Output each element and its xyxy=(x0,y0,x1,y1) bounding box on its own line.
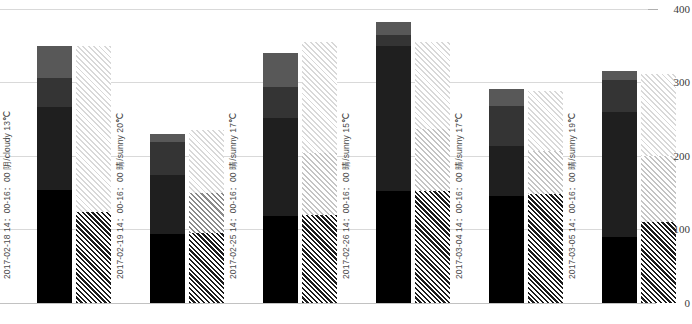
solid-stacked-bar[interactable] xyxy=(489,89,524,303)
bar-segment xyxy=(189,193,224,233)
hatched-stacked-bar[interactable] xyxy=(528,91,563,303)
bar-segment xyxy=(489,196,524,303)
bar-segment xyxy=(415,191,450,303)
solid-stacked-bar[interactable] xyxy=(150,134,185,303)
hatched-stacked-bar[interactable] xyxy=(189,130,224,303)
category-label: 2017-03-04 14：00-16：00 晴/sunny 17℃ xyxy=(452,113,464,279)
bar-segment xyxy=(150,234,185,303)
bar-segment xyxy=(263,53,298,87)
category-label: 2017-02-25 14：00-16：00 晴/sunny 17℃ xyxy=(226,113,238,279)
bar-segment xyxy=(76,46,111,212)
bar-segment xyxy=(189,130,224,193)
y-axis-tick-label: 300 xyxy=(656,76,690,88)
bar-segment xyxy=(602,237,637,303)
bar-segment xyxy=(602,112,637,237)
bar-segment xyxy=(76,212,111,303)
bar-segment xyxy=(263,216,298,303)
bar-segment xyxy=(302,153,337,215)
hatched-stacked-bar[interactable] xyxy=(415,42,450,303)
bar-segment xyxy=(37,46,72,78)
bar-segment xyxy=(528,194,563,303)
bar-segment xyxy=(489,89,524,106)
bar-segment xyxy=(602,80,637,112)
bar-segment xyxy=(37,190,72,303)
bar-segment xyxy=(150,175,185,234)
bar-segment xyxy=(37,78,72,107)
bar-segment xyxy=(489,146,524,196)
y-axis: 400 300 200 100 0 xyxy=(656,0,692,324)
bar-segment xyxy=(150,134,185,142)
gridline-baseline-0 xyxy=(0,303,656,304)
bar-segment xyxy=(376,46,411,191)
bar-segment xyxy=(376,22,411,35)
bar-segment xyxy=(376,35,411,46)
bar-segment xyxy=(263,87,298,118)
y-axis-tick-label: 100 xyxy=(656,223,690,235)
y-axis-tick-label: 400 xyxy=(656,3,690,15)
y-axis-tick-label: 0 xyxy=(656,297,690,309)
category-label: 2017-02-26 14：00-16：00 晴/sunny 15℃ xyxy=(339,113,351,279)
category-label: 2017-03-05 14：00-16：00 晴/sunny 19℃ xyxy=(565,113,577,279)
gridline-400 xyxy=(0,9,656,10)
category-label: 2017-02-19 14：00-16：00 晴/sunny 20℃ xyxy=(113,113,125,279)
bar-segment xyxy=(302,42,337,153)
bar-segment xyxy=(302,215,337,303)
stacked-bar-chart: 2017-02-18 14：00-16：00 阴/cloudy 13℃ 2017… xyxy=(0,0,692,324)
bar-segment xyxy=(150,142,185,175)
bar-segment xyxy=(415,129,450,191)
category-label: 2017-02-18 14：00-16：00 阴/cloudy 13℃ xyxy=(0,111,12,279)
bar-segment xyxy=(602,71,637,80)
plot-area: 2017-02-18 14：00-16：00 阴/cloudy 13℃ 2017… xyxy=(0,0,656,324)
bar-segment xyxy=(376,191,411,303)
y-axis-tick-label: 200 xyxy=(656,150,690,162)
bar-segment xyxy=(415,42,450,129)
hatched-stacked-bar[interactable] xyxy=(76,46,111,303)
bar-segment xyxy=(37,107,72,190)
bar-segment xyxy=(489,106,524,146)
bar-segment xyxy=(528,91,563,151)
bar-segment xyxy=(528,151,563,194)
bar-segment xyxy=(189,233,224,303)
solid-stacked-bar[interactable] xyxy=(602,71,637,303)
bar-segment xyxy=(263,118,298,216)
solid-stacked-bar[interactable] xyxy=(376,22,411,303)
solid-stacked-bar[interactable] xyxy=(263,53,298,303)
solid-stacked-bar[interactable] xyxy=(37,46,72,303)
hatched-stacked-bar[interactable] xyxy=(302,42,337,303)
